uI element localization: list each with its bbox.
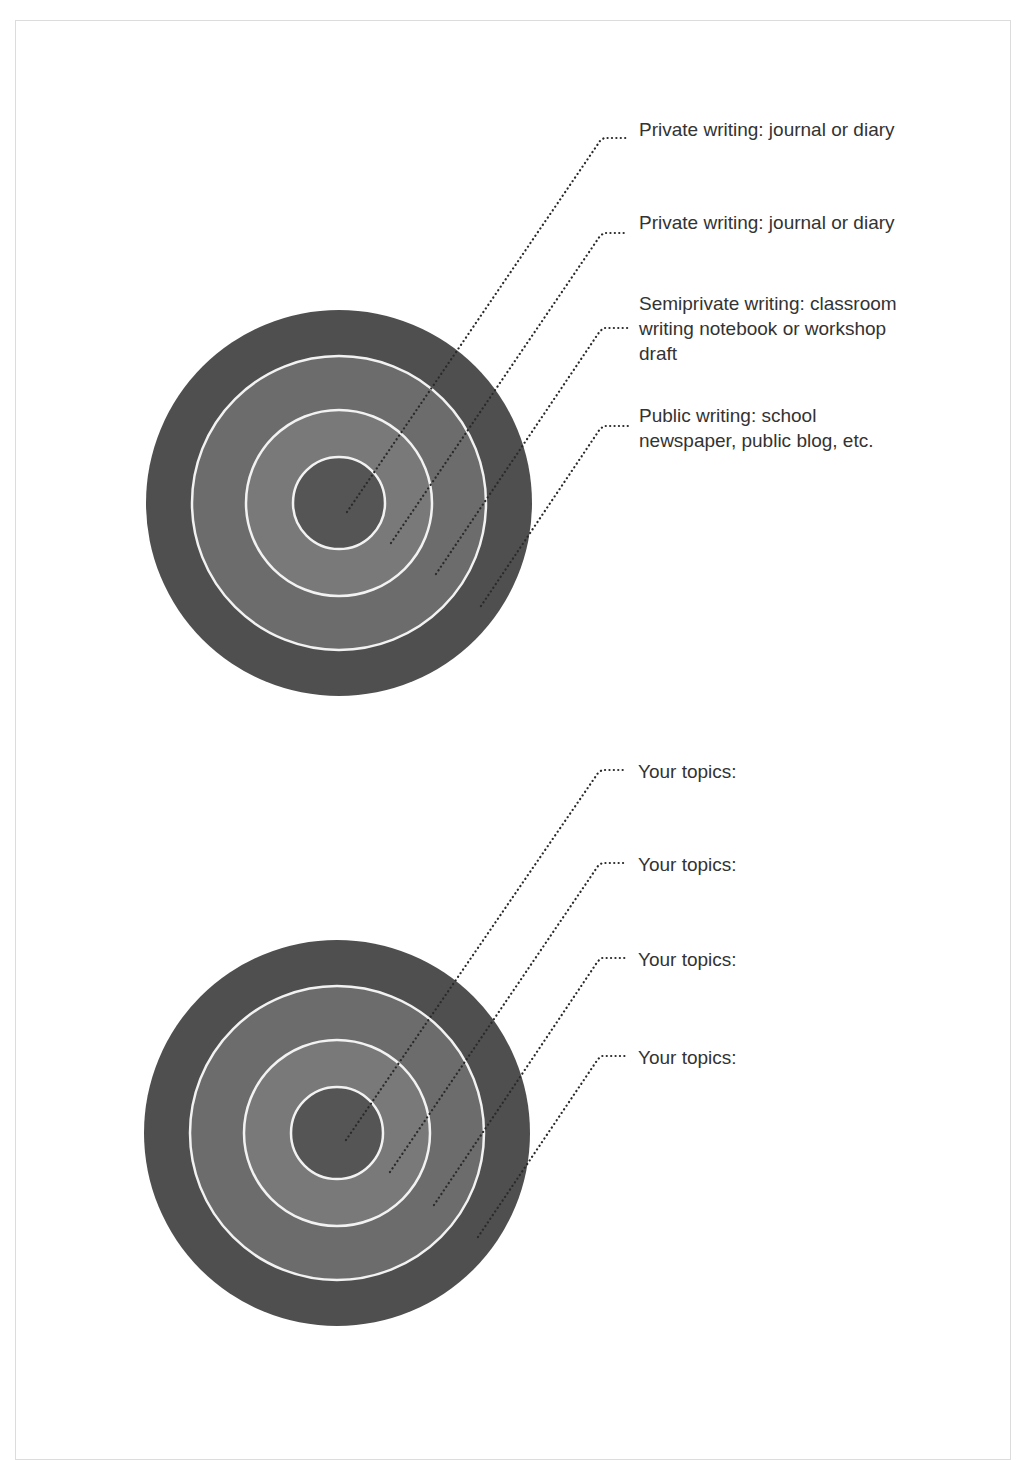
top-target — [146, 310, 532, 696]
top-label-private-1: Private writing: journal or diary — [639, 117, 919, 142]
bottom-center — [291, 1087, 383, 1179]
bottom-label-topics-3: Your topics: — [638, 947, 918, 972]
top-label-semiprivate: Semiprivate writing: classroom writing n… — [639, 291, 909, 366]
top-label-private-2: Private writing: journal or diary — [639, 210, 919, 235]
bottom-label-topics-1: Your topics: — [638, 759, 918, 784]
top-center — [293, 457, 385, 549]
bottom-label-topics-4: Your topics: — [638, 1045, 918, 1070]
top-label-public: Public writing: school newspaper, public… — [639, 403, 909, 453]
bottom-label-topics-2: Your topics: — [638, 852, 918, 877]
bottom-target — [144, 940, 530, 1326]
